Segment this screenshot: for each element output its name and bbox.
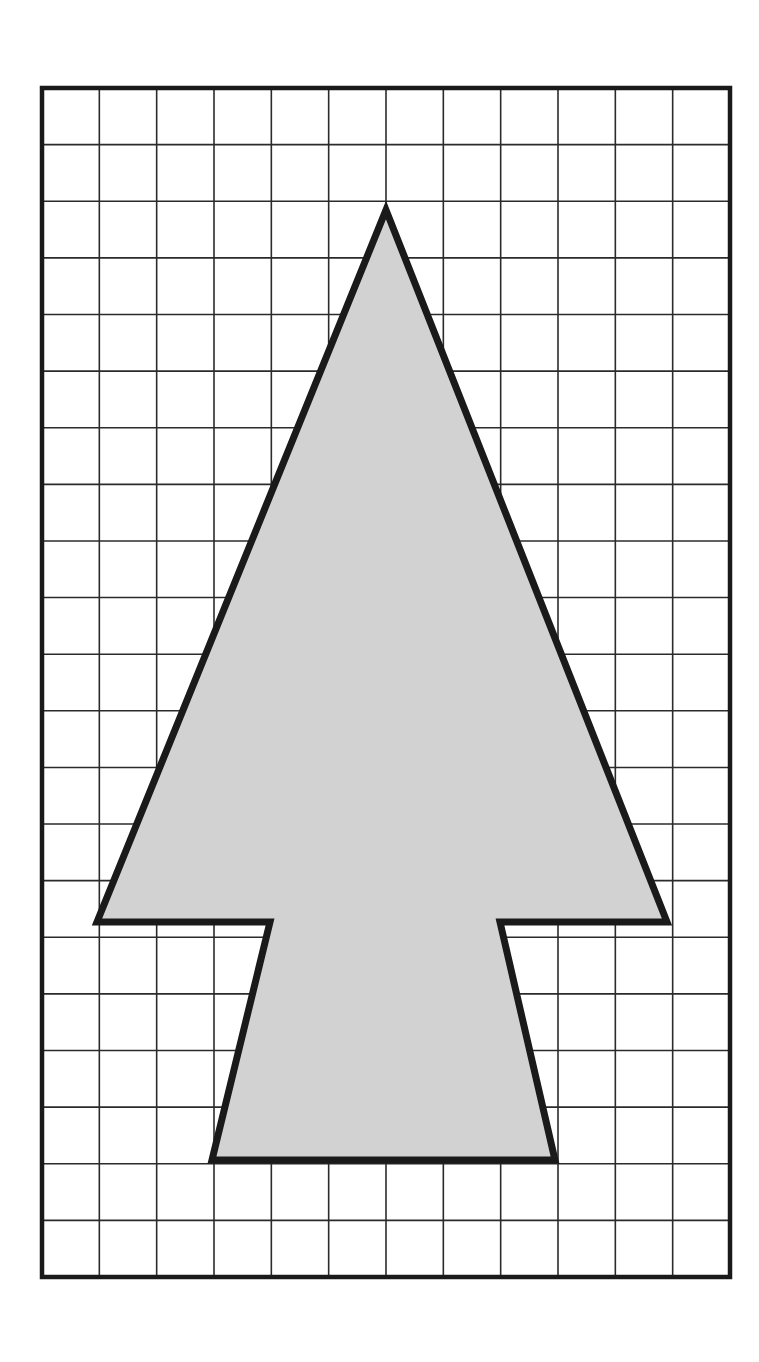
figure-canvas [0, 0, 759, 1362]
